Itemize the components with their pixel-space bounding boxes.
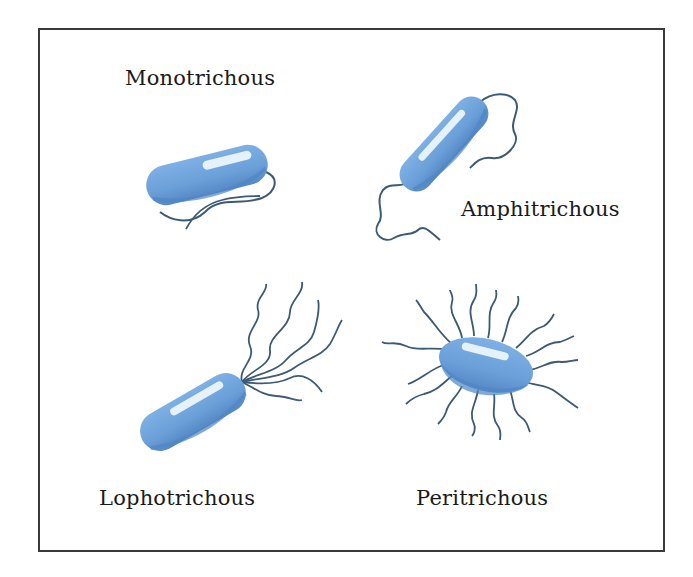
label-lophotrichous: Lophotrichous xyxy=(99,486,255,510)
peritrichous-bacterium xyxy=(382,284,578,440)
label-peritrichous: Peritrichous xyxy=(416,486,548,510)
monotrichous-bacterium xyxy=(142,141,275,229)
label-monotrichous: Monotrichous xyxy=(125,66,275,90)
label-amphitrichous: Amphitrichous xyxy=(461,197,620,221)
lophotrichous-bacterium xyxy=(133,282,342,460)
